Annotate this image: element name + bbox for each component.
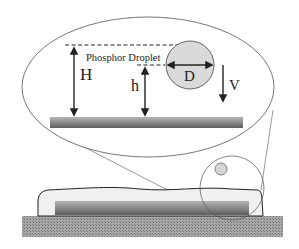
small-phosphor-droplet — [215, 163, 227, 175]
phosphor-settling-diagram: H h Phosphor Droplet D V — [0, 0, 299, 249]
height-h-label: h — [131, 77, 139, 94]
substrate — [22, 216, 283, 237]
height-H-label: H — [80, 65, 92, 84]
chip-bar-magnified — [50, 117, 243, 128]
phosphor-droplet-label: Phosphor Droplet — [86, 52, 160, 63]
diameter-D-label: D — [184, 68, 195, 84]
chip-bar — [55, 201, 249, 215]
velocity-V-label: V — [229, 77, 240, 93]
